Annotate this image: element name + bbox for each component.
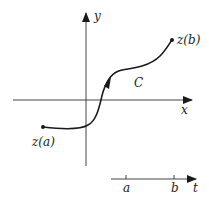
- tick-label-b: b: [171, 181, 179, 195]
- curve-label: C: [134, 76, 143, 90]
- y-axis-label: y: [93, 9, 101, 23]
- start-label: z(a): [31, 135, 55, 149]
- x-axis-label: x: [181, 103, 188, 117]
- end-point: [170, 38, 174, 42]
- t-axis-label: t: [193, 181, 198, 195]
- tick-label-a: a: [123, 181, 130, 195]
- start-point: [41, 125, 45, 129]
- diagram-canvas: y x z(a) z(b) C a b t: [0, 0, 209, 202]
- end-label: z(b): [176, 33, 201, 47]
